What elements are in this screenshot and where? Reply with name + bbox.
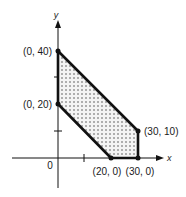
x-axis-arrow-icon bbox=[156, 155, 164, 161]
vertex-label-0-40: (0, 40) bbox=[23, 46, 52, 57]
feasible-region-diagram: y x 0 (0, 40) (0, 20) (20, 0) (30, 0) (3… bbox=[0, 0, 186, 197]
vertex-label-0-20: (0, 20) bbox=[23, 99, 52, 110]
vertex-30-10 bbox=[136, 129, 141, 134]
feasible-region bbox=[58, 51, 138, 158]
vertex-label-30-10: (30, 10) bbox=[144, 126, 178, 137]
vertex-0-20 bbox=[56, 102, 61, 107]
vertex-20-0 bbox=[109, 156, 114, 161]
vertex-label-20-0: (20, 0) bbox=[93, 166, 122, 177]
y-axis-arrow-icon bbox=[55, 20, 61, 28]
x-axis-label: x bbox=[166, 153, 172, 163]
vertex-0-40 bbox=[56, 49, 61, 54]
y-axis-label: y bbox=[53, 10, 59, 20]
vertex-30-0 bbox=[136, 156, 141, 161]
origin-label: 0 bbox=[47, 160, 53, 171]
vertex-label-30-0: (30, 0) bbox=[126, 166, 155, 177]
x-axis bbox=[12, 154, 164, 162]
